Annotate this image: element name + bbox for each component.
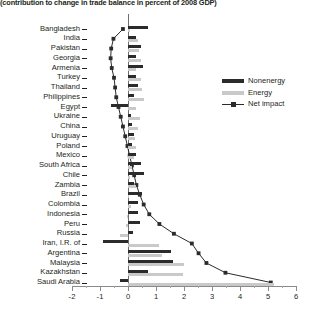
x-tick [100, 286, 101, 291]
category-tick [82, 234, 87, 235]
category-label: Kazakhstan [0, 268, 80, 276]
category-tick [82, 175, 87, 176]
bar-nonenergy [103, 240, 128, 243]
net-impact-marker [109, 56, 113, 60]
bar-energy [128, 127, 138, 130]
category-tick [82, 146, 87, 147]
net-impact-marker [119, 115, 123, 119]
x-minor-tick [226, 286, 227, 288]
x-tick-label: 2 [174, 292, 194, 301]
category-label: Argentina [0, 249, 80, 257]
chart-title: (contribution to change in trade balance… [0, 0, 327, 7]
category-label: Chile [0, 171, 80, 179]
category-tick [82, 58, 87, 59]
category-tick [82, 253, 87, 254]
bar-energy [126, 224, 128, 227]
net-impact-marker [121, 125, 125, 129]
bar-nonenergy [128, 192, 142, 195]
category-tick [82, 214, 87, 215]
category-label: Zambia [0, 181, 80, 189]
bar-nonenergy [128, 211, 138, 214]
x-tick [240, 286, 241, 291]
x-tick-label: 0 [118, 292, 138, 301]
bar-energy [128, 107, 136, 110]
x-tick [128, 286, 129, 291]
legend-item: Net impact [222, 99, 322, 109]
category-label: Ukraine [0, 112, 80, 120]
x-minor-tick [114, 286, 115, 288]
category-tick [82, 88, 87, 89]
category-label: Poland [0, 142, 80, 150]
category-label: Colombia [0, 200, 80, 208]
category-label: Armenia [0, 64, 80, 72]
net-impact-marker [110, 66, 114, 70]
plot-area: BangladeshIndiaPakistanGeorgiaArmeniaTur… [0, 14, 327, 286]
net-impact-marker [142, 203, 146, 207]
bar-energy [128, 273, 183, 276]
category-tick [82, 136, 87, 137]
legend-swatch [222, 91, 244, 95]
bar-energy [128, 195, 129, 198]
net-impact-marker [114, 95, 118, 99]
bar-energy [128, 244, 159, 247]
net-impact-marker [113, 86, 117, 90]
bar-energy [128, 29, 130, 32]
category-tick [82, 39, 87, 40]
x-tick-label: 1 [146, 292, 166, 301]
x-tick-label: 3 [202, 292, 222, 301]
category-label: Uruguay [0, 132, 80, 140]
category-label: Mexico [0, 151, 80, 159]
bar-energy [128, 205, 131, 208]
x-tick-label: -2 [62, 292, 82, 301]
x-tick [212, 286, 213, 291]
legend-swatch [222, 79, 244, 83]
chart-legend: NonenergyEnergyNet impact [222, 76, 322, 111]
category-label: Malaysia [0, 259, 80, 267]
category-tick [82, 205, 87, 206]
net-impact-marker [112, 76, 116, 80]
category-tick [82, 78, 87, 79]
bar-energy [128, 117, 140, 120]
legend-marker [231, 102, 236, 107]
bar-energy [128, 49, 139, 52]
category-tick [82, 195, 87, 196]
net-impact-marker [109, 47, 113, 51]
bar-nonenergy [128, 26, 148, 29]
bar-energy [120, 234, 128, 237]
category-label: Russia [0, 229, 80, 237]
category-tick [82, 166, 87, 167]
legend-label: Energy [248, 88, 272, 98]
bar-energy [128, 98, 144, 101]
net-impact-marker [190, 242, 194, 246]
x-tick [184, 286, 185, 291]
legend-label: Net impact [248, 99, 284, 109]
net-impact-marker [224, 271, 228, 275]
x-tick-label: 6 [286, 292, 306, 301]
bar-energy [128, 78, 141, 81]
x-axis: -2-10123456 [0, 286, 327, 314]
category-tick [82, 127, 87, 128]
x-tick [296, 286, 297, 291]
x-tick-label: 5 [258, 292, 278, 301]
category-tick [82, 273, 87, 274]
bar-energy [128, 59, 141, 62]
category-label: South Africa [0, 161, 80, 169]
bar-energy [128, 156, 134, 159]
bar-energy [127, 215, 128, 218]
category-tick [82, 29, 87, 30]
bar-nonenergy [128, 172, 144, 175]
category-label: Pakistan [0, 44, 80, 52]
net-impact-marker [172, 232, 176, 236]
category-tick [82, 263, 87, 264]
x-tick [268, 286, 269, 291]
category-label: China [0, 122, 80, 130]
x-minor-tick [254, 286, 255, 288]
x-minor-tick [198, 286, 199, 288]
category-label: Bangladesh [0, 25, 80, 33]
category-label: Turkey [0, 73, 80, 81]
net-impact-marker [123, 134, 127, 138]
bar-energy [128, 146, 136, 149]
bar-nonenergy [128, 231, 133, 234]
x-minor-tick [142, 286, 143, 288]
bar-energy [128, 39, 138, 42]
